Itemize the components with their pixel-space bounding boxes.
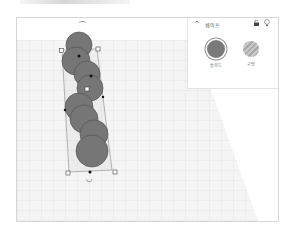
solid-label: 솔리드 bbox=[204, 62, 228, 68]
panel-header: ^ 쉐이프 bbox=[188, 18, 279, 32]
lightbulb-icon[interactable] bbox=[264, 19, 270, 27]
hole-label: 구멍 bbox=[239, 61, 263, 67]
hole-shape-button[interactable]: 구멍 bbox=[239, 40, 263, 78]
panel-title: 쉐이프 bbox=[205, 21, 220, 28]
lock-icon[interactable] bbox=[254, 20, 259, 26]
editor-viewport[interactable]: ⌒ ◡ ^ 쉐이프 솔리드 구멍 bbox=[16, 17, 279, 222]
rotate-arrow-icon[interactable]: ⌒ bbox=[79, 19, 86, 29]
solid-shape-button[interactable]: 솔리드 bbox=[204, 40, 228, 78]
solid-swatch bbox=[207, 40, 225, 58]
chevron-up-icon[interactable]: ^ bbox=[194, 20, 200, 28]
rotate-arrow-icon[interactable]: ◡ bbox=[86, 175, 92, 183]
hole-swatch bbox=[243, 41, 259, 57]
top-toolbar-remnant bbox=[20, 0, 130, 4]
shape-panel: ^ 쉐이프 솔리드 구멍 bbox=[187, 18, 279, 89]
